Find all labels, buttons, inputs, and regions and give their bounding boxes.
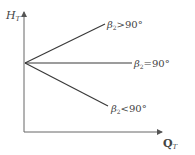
diagram-canvas: HT QT β2>90° β2=90° β2<90°: [0, 0, 195, 155]
label-beta2-greater-90: β2>90°: [106, 19, 143, 31]
label-beta2-less-90: β2<90°: [110, 103, 147, 115]
x-axis-label: QT: [163, 137, 179, 151]
line-beta2-less-90: [25, 63, 108, 106]
line-beta2-greater-90: [25, 24, 105, 63]
y-axis-label: HT: [5, 9, 22, 23]
label-beta2-equal-90: β2=90°: [133, 58, 170, 70]
